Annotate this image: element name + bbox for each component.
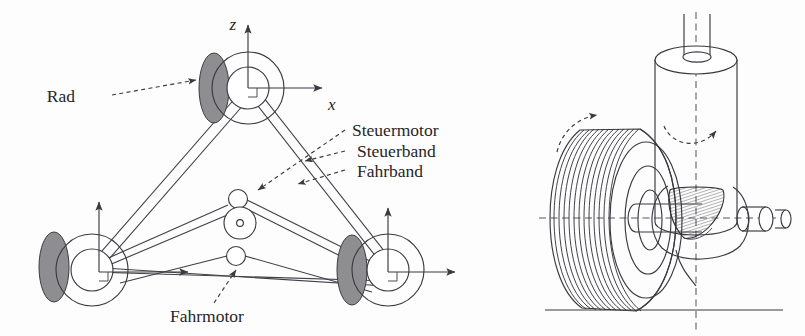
figure-svg: Rad Steuermotor Steuerband Fahrband Fahr… [0, 0, 805, 336]
belt-fahr-pulley-to-left [120, 256, 227, 283]
belt-left-to-mid-pulley [95, 213, 232, 271]
leader-steuerband [305, 151, 345, 161]
leader-line-group [112, 80, 345, 303]
bevel-gear-cone [669, 187, 724, 239]
label-steuerband: Steuerband [357, 141, 436, 161]
wheel-far-face-edge [636, 129, 676, 311]
column-bore [683, 52, 711, 62]
leader-fahrband [298, 170, 345, 184]
collar-inner-face [737, 207, 749, 231]
wheel-rim-ring-mid [625, 166, 671, 274]
right-detail-panel [539, 12, 791, 332]
mid-pulley [224, 207, 256, 239]
technical-figure: Rad Steuermotor Steuerband Fahrband Fahr… [0, 0, 805, 336]
label-fahrband: Fahrband [357, 161, 423, 181]
wheel-rotation-arrow [557, 115, 597, 152]
leader-steuermotor [258, 130, 345, 190]
steuermotor-pulley [229, 190, 248, 209]
tread-wheel [550, 129, 682, 311]
bottom-left-wheel-tyre [39, 232, 69, 302]
label-fahrmotor: Fahrmotor [170, 306, 244, 326]
knuckle-lower-edge [676, 250, 696, 286]
axis-label-z: z [228, 15, 236, 34]
bottom-left-inner-circle [71, 249, 113, 291]
top-wheel-tyre [199, 53, 229, 123]
axis-label-x: x [327, 95, 336, 114]
fahrmotor-pulley [227, 247, 246, 266]
label-rad: Rad [47, 86, 75, 106]
rotation-arrow-group [557, 115, 716, 152]
stub-end-face [781, 210, 791, 228]
bottom-right-wheel-assembly [337, 208, 455, 306]
leader-rad [112, 80, 196, 95]
left-schematic-panel: Rad Steuermotor Steuerband Fahrband Fahr… [39, 15, 455, 326]
collar-end-face [759, 207, 773, 231]
central-pulley-stack [224, 190, 256, 266]
wheel-hub-ring-inner [638, 190, 662, 250]
steering-rotation-arrow [664, 126, 716, 143]
label-steuermotor: Steuermotor [352, 120, 439, 140]
